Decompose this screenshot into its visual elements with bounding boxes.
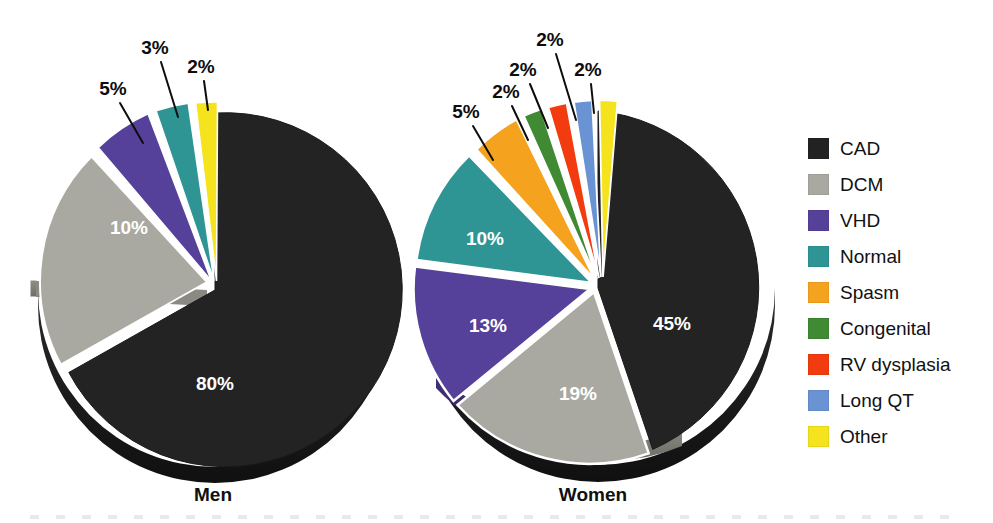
women-pie-chart: 45% 19% 13% 10% 5% 2% 2% 2% 2%: [380, 0, 820, 500]
women-label-normal: 10%: [466, 228, 504, 249]
women-label-cad: 45%: [653, 313, 691, 334]
women-label-spasm: 5%: [452, 101, 480, 122]
legend-item-normal[interactable]: Normal: [808, 240, 988, 272]
legend-item-rv-dysplasia[interactable]: RV dysplasia: [808, 348, 988, 380]
women-label-vhd: 13%: [469, 315, 507, 336]
women-label-long-qt: 2%: [536, 29, 564, 50]
men-pie-title: Men: [133, 484, 293, 506]
women-pie-title: Women: [513, 484, 673, 506]
legend-label: RV dysplasia: [840, 355, 951, 374]
men-label-cad: 80%: [196, 373, 234, 394]
legend-label: VHD: [840, 211, 880, 230]
legend-label: Spasm: [840, 283, 899, 302]
legend-swatch-icon: [808, 318, 829, 339]
men-label-dcm: 10%: [110, 217, 148, 238]
legend-item-dcm[interactable]: DCM: [808, 168, 988, 200]
legend-item-spasm[interactable]: Spasm: [808, 276, 988, 308]
legend-item-congenital[interactable]: Congenital: [808, 312, 988, 344]
legend-item-other[interactable]: Other: [808, 420, 988, 452]
legend-item-vhd[interactable]: VHD: [808, 204, 988, 236]
men-label-normal: 3%: [141, 37, 169, 58]
legend-swatch-icon: [808, 390, 829, 411]
legend-label: Long QT: [840, 391, 914, 410]
men-label-vhd: 5%: [99, 78, 127, 99]
legend-swatch-icon: [808, 354, 829, 375]
women-label-congenital: 2%: [492, 81, 520, 102]
women-label-rv-dysplasia: 2%: [509, 59, 537, 80]
legend-swatch-icon: [808, 282, 829, 303]
legend-swatch-icon: [808, 426, 829, 447]
scan-artifact: [30, 515, 960, 519]
women-label-other: 2%: [574, 59, 602, 80]
chart-legend: CADDCMVHDNormalSpasmCongenitalRV dysplas…: [808, 132, 988, 456]
legend-item-long-qt[interactable]: Long QT: [808, 384, 988, 416]
men-pie-chart: 80% 10% 5% 3% 2%: [0, 0, 440, 500]
legend-swatch-icon: [808, 138, 829, 159]
men-label-other: 2%: [187, 56, 215, 77]
legend-swatch-icon: [808, 210, 829, 231]
legend-label: Other: [840, 427, 888, 446]
legend-label: Congenital: [840, 319, 931, 338]
legend-item-cad[interactable]: CAD: [808, 132, 988, 164]
legend-swatch-icon: [808, 246, 829, 267]
legend-label: CAD: [840, 139, 880, 158]
pie-chart-figure: 80% 10% 5% 3% 2%: [0, 0, 993, 523]
legend-label: DCM: [840, 175, 883, 194]
women-label-dcm: 19%: [559, 383, 597, 404]
legend-swatch-icon: [808, 174, 829, 195]
legend-label: Normal: [840, 247, 901, 266]
